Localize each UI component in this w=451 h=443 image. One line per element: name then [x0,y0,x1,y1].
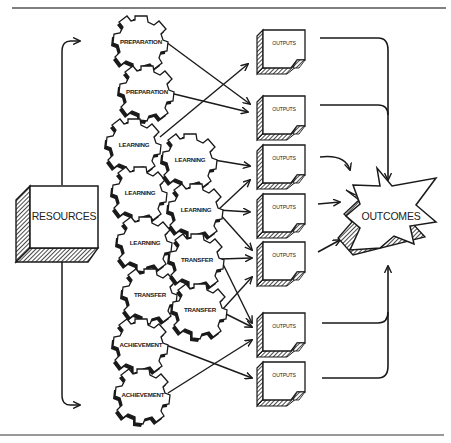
gear-label: TRANSFER [181,256,214,263]
gear-label: TRANSFER [134,291,167,298]
gear-transfer-2: TRANSFER [167,234,224,292]
gear-label: TRANSFER [184,306,217,313]
output-box-6: OUTPUTS [257,313,305,357]
output-box-7: OUTPUTS [257,362,305,406]
outcomes-burst: OUTCOMES [338,168,436,255]
diagram-canvas: RESOURCES OUTCOMES PREPARATION [0,0,451,443]
gear-label: PREPARATION [126,88,169,95]
gear-achievement-1: ACHIEVEMENT [111,319,168,377]
output-label: OUTPUTS [272,323,296,329]
output-label: OUTPUTS [272,372,296,378]
gear-preparation-2: PREPARATION [117,66,174,124]
gear-label: LEARNING [130,239,161,246]
output-box-5: OUTPUTS [257,242,305,286]
output-box-4: OUTPUTS [257,194,305,238]
gear-learning-3: LEARNING [115,217,172,275]
resources-bracket-top-arrow [62,41,80,185]
output-label: OUTPUTS [272,106,296,112]
gear-learning-1: LEARNING [104,119,161,177]
output-box-1: OUTPUTS [257,30,305,74]
gear-label: LEARNING [125,189,156,196]
outcomes-label: OUTCOMES [361,210,420,222]
resources-box: RESOURCES [16,186,98,262]
resources-label: RESOURCES [32,210,97,222]
gear-label: LEARNING [119,141,150,148]
gear-label: ACHIEVEMENT [120,341,163,348]
resources-bracket-bottom-arrow [62,262,80,405]
gear-preparation-1: PREPARATION [111,16,168,74]
gear-label: ACHIEVEMENT [122,391,165,398]
gear-label: LEARNING [181,206,212,213]
gear-learning-4: LEARNING [160,134,217,192]
gear-learning-5: LEARNING [166,184,223,242]
output-label: OUTPUTS [272,204,296,210]
output-label: OUTPUTS [272,40,296,46]
output-label: OUTPUTS [272,252,296,258]
gear-label: PREPARATION [120,38,163,45]
output-box-3: OUTPUTS [257,145,305,189]
output-label: OUTPUTS [272,155,296,161]
gear-label: LEARNING [175,156,206,163]
gear-achievement-2: ACHIEVEMENT [113,369,170,427]
gear-transfer-1: TRANSFER [120,269,177,327]
output-box-2: OUTPUTS [257,96,305,140]
gear-transfer-3: TRANSFER [170,284,227,342]
gear-learning-2: LEARNING [110,167,167,225]
